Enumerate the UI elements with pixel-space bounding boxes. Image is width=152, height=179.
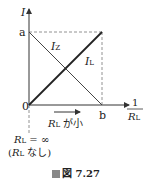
- rl-infinite-label: RL = ∞: [14, 134, 49, 147]
- x-label-numerator: 1: [132, 97, 138, 108]
- x-label-denominator: RL: [128, 111, 140, 124]
- caption-square-icon: [52, 170, 60, 178]
- iz-label: IZ: [51, 41, 60, 54]
- rl-none-label: (RL なし): [8, 147, 51, 160]
- x-tick-b: b: [99, 110, 106, 121]
- origin-label: 0: [22, 101, 29, 112]
- y-tick-a: a: [19, 27, 26, 38]
- rl-small-label: RL が小: [48, 118, 83, 131]
- il-label: IL: [85, 56, 94, 69]
- figure-caption: 図 7.27: [0, 165, 152, 179]
- y-axis-label: I: [21, 7, 25, 18]
